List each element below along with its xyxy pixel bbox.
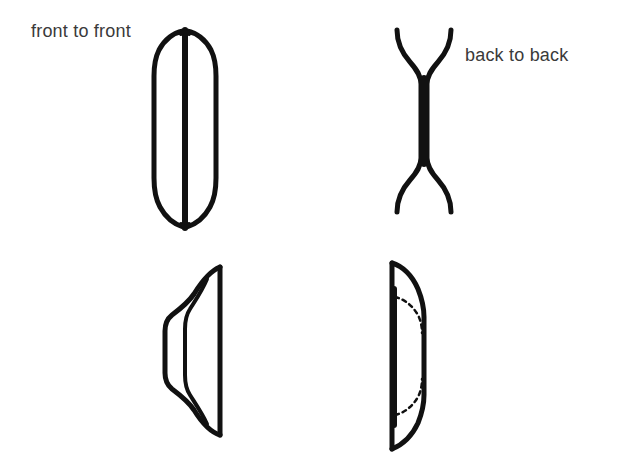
figure-front-to-back: front to back (0, 233, 310, 465)
hidden-edge-bottom (395, 379, 422, 415)
shape-back-to-front (382, 255, 452, 455)
hidden-edge-top (395, 297, 422, 333)
shape-front-to-front (143, 26, 227, 232)
figure-back-to-back: back to back (310, 0, 620, 232)
shape-front-to-back (150, 261, 240, 441)
diagram-canvas: front to front back to back front to bac… (0, 0, 620, 465)
figure-label-back-to-back: back to back (465, 46, 568, 64)
shape-back-to-back (388, 26, 460, 216)
figure-label-front-to-front: front to front (31, 22, 131, 40)
figure-back-to-front: back to front (310, 233, 620, 465)
figure-front-to-front: front to front (0, 0, 310, 232)
